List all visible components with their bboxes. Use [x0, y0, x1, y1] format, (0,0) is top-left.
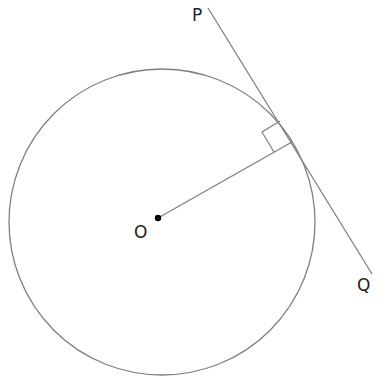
- label-p: P: [192, 5, 202, 25]
- center-point: [155, 215, 161, 221]
- right-angle-marker: [262, 121, 280, 152]
- circle: [9, 69, 315, 375]
- tangent-line-pq: [208, 8, 372, 274]
- label-q: Q: [357, 275, 370, 295]
- tangent-diagram: O P Q: [0, 0, 392, 384]
- label-o: O: [134, 222, 147, 242]
- radius-line: [158, 142, 292, 218]
